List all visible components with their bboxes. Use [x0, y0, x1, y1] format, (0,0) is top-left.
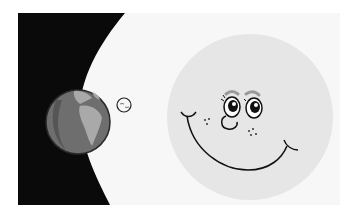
- smiling-moon-face: [167, 34, 333, 200]
- illustration: [0, 0, 358, 216]
- earth: [46, 90, 110, 154]
- small-moon: [117, 98, 131, 112]
